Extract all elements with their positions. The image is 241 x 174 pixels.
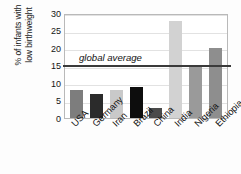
y-tick-20: 20	[39, 45, 61, 54]
y-axis-title-line-2: low birthweight	[24, 5, 35, 66]
y-tick-0: 0	[39, 115, 61, 124]
y-tick-15: 15	[39, 62, 61, 71]
bar-india	[169, 21, 182, 118]
low-birthweight-bar-chart: % of infants with low birthweight 302520…	[0, 0, 241, 174]
y-tick-25: 25	[39, 27, 61, 36]
y-axis-tick-labels: 302520151050	[38, 0, 61, 174]
bar-nigeria	[189, 66, 202, 119]
y-tick-10: 10	[39, 80, 61, 89]
y-axis-title: % of infants with low birthweight	[7, 0, 41, 85]
x-axis-tick-labels: USAGermanyIranBrazilChinaIndiaNigeriaEth…	[64, 121, 228, 173]
y-tick-30: 30	[39, 10, 61, 19]
plot-area: global average	[64, 14, 228, 119]
global-average-label: global average	[79, 52, 142, 63]
global-average-line	[63, 65, 231, 67]
y-axis-title-line-1: % of infants with	[13, 5, 24, 66]
y-tick-5: 5	[39, 97, 61, 106]
